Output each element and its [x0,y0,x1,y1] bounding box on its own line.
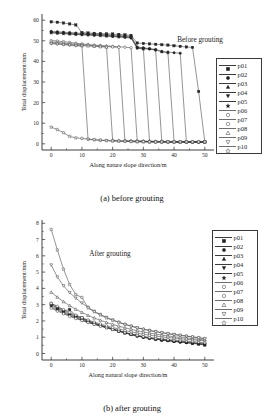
series-line-p07 [51,303,205,340]
data-point-p08 [117,325,120,328]
data-point-p10 [166,332,169,335]
legend-after-grouting: p01p02p03p04p05p06p07p08p09p10 [212,230,258,326]
legend-label: p04 [232,260,244,269]
data-point-p10 [50,125,53,128]
legend-label: p02 [232,242,244,251]
legend-label: p07 [236,115,248,124]
y-tick-label: 7 [36,237,39,243]
data-point-p10 [56,128,59,131]
legend-label: p06 [236,106,248,115]
data-point-p10 [105,139,108,142]
panel-caption-b: (b) after grouting [0,404,264,413]
data-point-p06 [87,321,90,324]
legend-before-grouting: p01p02p03p04p05p06p07p08p09p10 [216,58,262,154]
legend-item-p02[interactable]: p02 [215,242,256,251]
data-point-p09 [50,43,53,46]
y-axis-label: Total displacement/mm [20,261,27,319]
chart-panel-after-grouting: 01020304050012345678Along natural slope … [0,210,264,420]
legend-item-p01[interactable]: p01 [215,233,256,242]
data-point-p07 [105,325,108,328]
legend-item-p06[interactable]: p06 [215,278,256,287]
data-point-p08 [123,326,126,329]
legend-label: p06 [232,278,244,287]
legend-label: p05 [232,269,244,278]
legend-item-p05[interactable]: p05 [219,97,260,106]
data-point-p10 [56,248,59,251]
data-point-p07 [62,308,65,311]
legend-item-p04[interactable]: p04 [215,260,256,269]
legend-label: p02 [236,70,248,79]
legend-item-p08[interactable]: p08 [219,124,260,133]
data-point-p02 [173,51,176,54]
data-point-p07 [111,46,114,49]
legend-marker-open-star-icon [215,314,232,323]
data-point-p10 [86,137,89,140]
data-point-p07 [68,311,71,314]
data-point-p08 [105,321,108,324]
legend-marker-open-circle-icon [215,278,232,287]
legend-item-p03[interactable]: p03 [215,251,256,260]
legend-marker-filled-triangle-down-icon [219,88,236,97]
legend-item-p09[interactable]: p09 [215,305,256,314]
legend-item-p07[interactable]: p07 [219,115,260,124]
data-point-p07 [56,305,59,308]
legend-marker-filled-square-icon [219,61,236,70]
data-point-p01 [142,42,145,45]
legend-item-p03[interactable]: p03 [219,79,260,88]
data-point-p07 [142,333,145,336]
series-line-p10 [51,127,205,142]
legend-item-p09[interactable]: p09 [219,133,260,142]
legend-label: p01 [232,233,244,242]
data-point-p07 [136,332,139,335]
y-tick-label: 30 [33,79,39,85]
data-point-p09 [68,44,71,47]
legend-item-p04[interactable]: p04 [219,88,260,97]
chart-panel-before-grouting: 010203040500102030405060Along nature slo… [0,0,264,210]
data-point-p07 [99,323,102,326]
legend-marker-filled-square-icon [215,233,232,242]
y-tick-label: 6 [36,253,39,259]
legend-marker-open-circle-icon [215,287,232,296]
legend-label: p05 [236,97,248,106]
y-tick-label: 20 [33,100,39,106]
y-tick-label: 4 [36,285,39,291]
data-point-p06 [124,46,127,49]
legend-item-p10[interactable]: p10 [215,314,256,323]
data-point-p10 [172,333,175,336]
legend-item-p10[interactable]: p10 [219,142,260,151]
x-tick-label: 10 [79,362,85,368]
y-tick-label: 8 [36,220,39,226]
data-point-p07 [111,326,114,329]
data-point-p01 [191,46,194,49]
data-point-p01 [148,43,151,46]
legend-item-p07[interactable]: p07 [215,287,256,296]
legend-marker-open-triangle-up-icon [219,124,236,133]
data-point-p01 [167,44,170,47]
data-point-p08 [80,311,83,314]
legend-item-p06[interactable]: p06 [219,106,260,115]
data-point-p07 [118,328,121,331]
data-point-p10 [80,137,83,140]
x-axis-label: Along nature slope direction/m [89,161,166,168]
data-point-p10 [203,337,206,340]
x-tick-label: 0 [50,152,53,158]
legend-item-p08[interactable]: p08 [215,296,256,305]
y-tick-label: 0 [36,141,39,147]
data-point-p10 [68,135,71,138]
data-point-p01 [173,44,176,47]
series-line-p03 [51,32,205,142]
x-tick-label: 20 [110,152,116,158]
legend-item-p02[interactable]: p02 [219,70,260,79]
data-point-p10 [62,131,65,134]
legend-item-p01[interactable]: p01 [219,61,260,70]
data-point-p10 [191,335,194,338]
legend-label: p04 [236,88,248,97]
data-point-p10 [160,331,163,334]
legend-item-p05[interactable]: p05 [215,269,256,278]
x-tick-label: 50 [202,362,208,368]
data-point-p10 [74,136,77,139]
data-point-p01 [62,22,65,25]
x-tick-label: 30 [141,152,147,158]
legend-marker-filled-triangle-down-icon [215,260,232,269]
legend-marker-open-circle-icon [219,115,236,124]
